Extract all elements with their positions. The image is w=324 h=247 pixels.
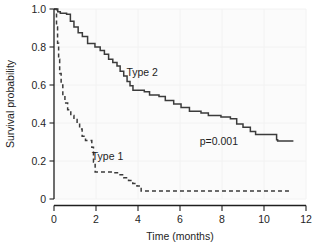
x-tick-label: 4 [135,213,141,225]
y-tick-label: 0.6 [31,79,46,91]
y-axis-title: Survival probability [4,59,16,148]
x-tick-label: 10 [258,213,270,225]
x-tick-label: 12 [300,213,312,225]
y-tick-label: 0 [40,193,46,205]
survival-curve-figure: 00.20.40.60.81.0 024681012 Survival prob… [0,0,324,247]
y-tick-label: 0.2 [31,155,46,167]
y-axis-tick-labels: 00.20.40.60.81.0 [31,3,46,205]
y-tick-label: 0.4 [31,117,46,129]
y-tick-label: 1.0 [31,3,46,15]
y-tick-label: 0.8 [31,41,46,53]
x-axis-tick-labels: 024681012 [51,213,312,225]
x-tick-label: 6 [177,213,183,225]
p-value-annotation: p=0.001 [200,135,238,147]
x-tick-label: 0 [51,213,57,225]
x-axis-title: Time (months) [146,230,213,242]
type-1-curve-label: Type 1 [92,150,124,162]
x-tick-label: 8 [219,213,225,225]
x-tick-label: 2 [93,213,99,225]
type-2-curve-label: Type 2 [126,66,158,78]
kaplan-meier-chart: 00.20.40.60.81.0 024681012 Survival prob… [0,0,324,247]
y-axis-ticks [50,9,55,199]
x-axis-ticks [54,206,306,212]
